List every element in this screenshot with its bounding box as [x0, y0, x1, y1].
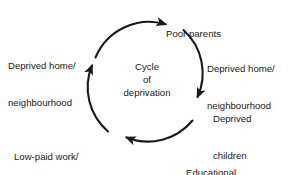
- cycle-of-deprivation-diagram: Cycle of deprivation Poor parents Depriv…: [0, 0, 289, 175]
- node-label-low-paid-work-line1: Low-paid work/: [14, 151, 79, 163]
- center-caption: Cycle of deprivation: [107, 60, 187, 99]
- node-label-deprived-home-left: Deprived home/ neighbourhood: [8, 35, 76, 134]
- arrow-left-arc: [88, 66, 108, 132]
- node-label-deprived-home-left-line2: neighbourhood: [8, 97, 76, 109]
- node-label-educational-failure-line1: Educational: [186, 167, 236, 175]
- node-label-deprived-children-line1: Deprived: [213, 113, 251, 125]
- node-label-educational-failure: Educational failure: [186, 142, 236, 175]
- node-label-deprived-home-right-line1: Deprived home/: [207, 63, 275, 75]
- arrow-top-arc: [96, 22, 166, 58]
- center-caption-line2: of: [107, 73, 187, 86]
- center-caption-line3: deprivation: [107, 86, 187, 99]
- arrow-bottom-arc: [127, 121, 193, 142]
- node-label-deprived-home-left-line1: Deprived home/: [8, 60, 76, 72]
